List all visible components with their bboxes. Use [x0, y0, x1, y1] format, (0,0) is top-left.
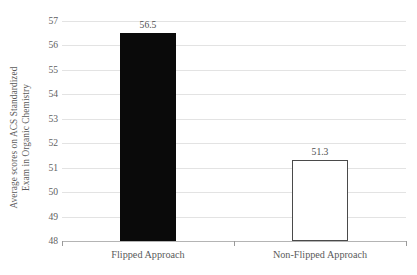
y-axis-tick-label: 48 — [28, 236, 58, 246]
y-axis-tick-label: 56 — [28, 40, 58, 50]
x-axis-category-label: Non-Flipped Approach — [234, 249, 406, 261]
gridline — [62, 168, 406, 169]
gridline — [62, 119, 406, 120]
y-axis-tick-label: 57 — [28, 16, 58, 26]
x-axis-tick — [62, 241, 63, 246]
bar-value-label: 51.3 — [290, 147, 350, 157]
bar-2[interactable] — [292, 160, 348, 241]
plot-area: 56.551.3 — [62, 21, 406, 241]
gridline — [62, 70, 406, 71]
x-axis-tick — [406, 241, 407, 246]
gridline — [62, 94, 406, 95]
bar-1[interactable] — [120, 33, 176, 241]
x-axis-category-label: Flipped Approach — [62, 249, 234, 261]
y-axis-tick-label: 54 — [28, 89, 58, 99]
gridline — [62, 45, 406, 46]
y-axis-tick-labels: 57565554535251504948 — [25, 21, 58, 241]
y-axis-tick-label: 55 — [28, 65, 58, 75]
gridline — [62, 217, 406, 218]
y-axis-tick-label: 52 — [28, 138, 58, 148]
gridline — [62, 143, 406, 144]
y-axis-tick-label: 51 — [28, 163, 58, 173]
bar-value-label: 56.5 — [118, 20, 178, 30]
bar-chart: Average scores on ACS Standardized Exam … — [0, 0, 417, 275]
x-axis-tick — [234, 241, 235, 246]
gridline — [62, 192, 406, 193]
y-axis-tick-label: 53 — [28, 114, 58, 124]
gridline — [62, 21, 406, 22]
y-axis-tick-label: 50 — [28, 187, 58, 197]
y-axis-tick-label: 49 — [28, 212, 58, 222]
